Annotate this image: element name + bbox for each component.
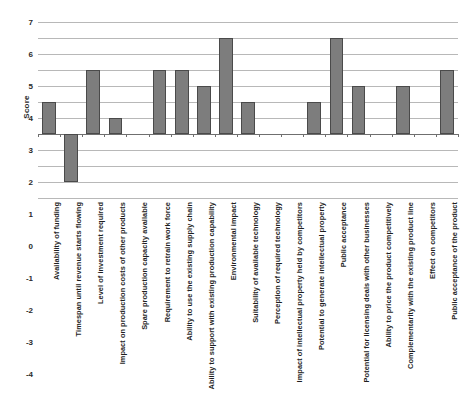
y-axis-tick-label: -4 (26, 370, 33, 379)
x-axis-category-label: Ability to use the existing supply chain (185, 202, 194, 341)
bar (330, 38, 344, 134)
bar-chart: Score 76543210-1-2-3-4 Availability of f… (0, 0, 469, 412)
x-axis-category-label: Impact of intellectual property held by … (295, 202, 304, 382)
bar (219, 38, 233, 134)
x-axis-category-label: Ability to support with existing product… (207, 202, 216, 389)
gridline: -2 (38, 166, 458, 167)
y-axis-tick-label: -3 (26, 338, 33, 347)
x-axis-tick (104, 134, 105, 137)
bar (42, 102, 56, 134)
x-axis-category-label: Timespan until revenue starts flowing (74, 202, 83, 336)
gridline: 4 (38, 70, 458, 71)
x-axis-category-label: Spare production capacity available (140, 202, 149, 330)
x-axis-tick (38, 134, 39, 137)
y-axis-tick-label: 7 (29, 18, 33, 27)
x-axis-tick (414, 134, 415, 137)
plot-area: 76543210-1-2-3-4 (38, 22, 458, 198)
x-axis-category-label: Public acceptance of the product (450, 202, 459, 320)
bar (175, 70, 189, 134)
x-axis-tick (392, 134, 393, 137)
y-axis-tick-label: 0 (29, 242, 33, 251)
bar (440, 70, 454, 134)
x-axis-tick (458, 134, 459, 137)
y-axis-tick-label: 6 (29, 50, 33, 59)
x-axis-tick (126, 134, 127, 137)
x-axis-category-label: Perception of required technology (273, 202, 282, 324)
gridline: -1 (38, 150, 458, 151)
x-axis-category-label: Complementarity with the existing produc… (406, 202, 415, 369)
x-axis-category-label: Public acceptance (339, 202, 348, 267)
x-axis-category-label: Effect on competitors (428, 202, 437, 279)
bar (109, 118, 123, 134)
bar (64, 134, 78, 182)
gridline: 6 (38, 38, 458, 39)
x-axis-tick (171, 134, 172, 137)
y-axis-tick-label: 5 (29, 82, 33, 91)
y-axis-tick-label: 2 (29, 178, 33, 187)
x-axis-tick (60, 134, 61, 137)
x-axis-category-label: Ability to price the product competitive… (384, 202, 393, 347)
bar (396, 86, 410, 134)
x-axis-category-label: Availability of funding (52, 202, 61, 280)
x-axis-tick (193, 134, 194, 137)
y-axis-tick-label: -2 (26, 306, 33, 315)
x-axis-tick (370, 134, 371, 137)
x-axis-tick (237, 134, 238, 137)
x-axis-tick (303, 134, 304, 137)
x-axis-tick (347, 134, 348, 137)
bar (352, 86, 366, 134)
x-axis-tick (82, 134, 83, 137)
x-axis-tick (149, 134, 150, 137)
gridline: 5 (38, 54, 458, 55)
y-axis-tick-label: 1 (29, 210, 33, 219)
x-axis-category-label: Requirement to retrain work force (163, 202, 172, 322)
zero-axis-line: 0 (38, 134, 458, 135)
bar (153, 70, 167, 134)
bar (86, 70, 100, 134)
y-axis-tick-label: -1 (26, 274, 33, 283)
x-axis-category-labels: Availability of fundingTimespan until re… (38, 198, 458, 412)
x-axis-category-label: Impact on production costs of other prod… (118, 202, 127, 364)
gridline: -3 (38, 182, 458, 183)
x-axis-category-label: Level of investment required (96, 202, 105, 304)
x-axis-category-label: Environmental impact (229, 202, 238, 280)
y-axis-tick-label: 4 (29, 114, 33, 123)
x-axis-category-label: Suitability of available technology (251, 202, 260, 323)
bar (307, 102, 321, 134)
bar (241, 102, 255, 134)
x-axis-category-label: Potential to generate intellectual prope… (317, 202, 326, 350)
x-axis-category-label: Potential for licensing deals with other… (362, 202, 371, 382)
x-axis-tick (259, 134, 260, 137)
gridline: 7 (38, 22, 458, 23)
x-axis-tick (325, 134, 326, 137)
x-axis-tick (281, 134, 282, 137)
x-axis-tick (215, 134, 216, 137)
x-axis-tick (436, 134, 437, 137)
bar (197, 86, 211, 134)
y-axis-tick-label: 3 (29, 146, 33, 155)
